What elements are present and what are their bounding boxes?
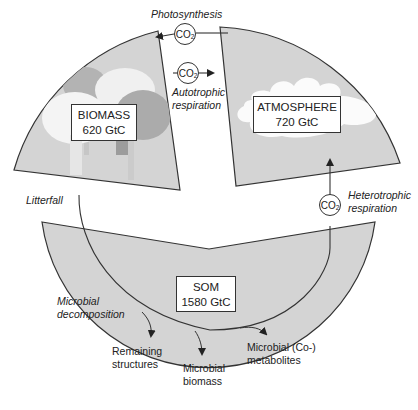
autotrophic-line1: Autotrophic bbox=[172, 86, 225, 99]
heterotrophic-line1: Heterotrophic bbox=[348, 189, 411, 202]
photosynthesis-arrow bbox=[157, 34, 174, 37]
heterotrophic-label: Heterotrophic respiration bbox=[348, 189, 411, 215]
remaining-line1: Remaining bbox=[112, 345, 162, 358]
atmosphere-value: 720 GtC bbox=[254, 115, 340, 130]
heterotrophic-line2: respiration bbox=[348, 202, 411, 215]
biomass-box: BIOMASS 620 GtC bbox=[71, 104, 137, 141]
photosynthesis-label: Photosynthesis bbox=[151, 8, 222, 21]
som-value: 1580 GtC bbox=[177, 295, 235, 310]
co2-heterotrophic: CO2 bbox=[319, 194, 341, 216]
som-box: SOM 1580 GtC bbox=[176, 276, 236, 312]
som-label: SOM bbox=[177, 280, 235, 295]
co2-autotrophic: CO2 bbox=[177, 62, 199, 84]
microbial-biomass-label: Microbial biomass bbox=[183, 362, 225, 388]
co2-text: CO bbox=[321, 200, 336, 211]
microbial-decomposition-line2: decomposition bbox=[57, 308, 125, 321]
co2-subscript: 2 bbox=[191, 33, 195, 40]
microbial-biomass-line2: biomass bbox=[183, 375, 225, 388]
remaining-line2: structures bbox=[112, 358, 162, 371]
autotrophic-line2: respiration bbox=[172, 99, 225, 112]
metabolites-line1: Microbial (Co-) bbox=[247, 341, 316, 354]
microbial-decomposition-line1: Microbial bbox=[57, 295, 125, 308]
co2-subscript: 2 bbox=[336, 204, 340, 211]
co2-subscript: 2 bbox=[194, 72, 198, 79]
remaining-structures-label: Remaining structures bbox=[112, 345, 162, 371]
biomass-value: 620 GtC bbox=[72, 123, 136, 138]
biomass-label: BIOMASS bbox=[72, 108, 136, 123]
atmosphere-box: ATMOSPHERE 720 GtC bbox=[253, 96, 341, 133]
atmosphere-label: ATMOSPHERE bbox=[254, 100, 340, 115]
litterfall-label: Litterfall bbox=[26, 194, 63, 207]
metabolites-line2: metabolites bbox=[247, 354, 316, 367]
autotrophic-label: Autotrophic respiration bbox=[172, 86, 225, 112]
co2-text: CO bbox=[176, 29, 191, 40]
microbial-biomass-line1: Microbial bbox=[183, 362, 225, 375]
co2-text: CO bbox=[179, 68, 194, 79]
metabolites-label: Microbial (Co-) metabolites bbox=[247, 341, 316, 367]
microbial-decomposition-label: Microbial decomposition bbox=[57, 295, 125, 321]
co2-photosynthesis: CO2 bbox=[174, 23, 196, 45]
